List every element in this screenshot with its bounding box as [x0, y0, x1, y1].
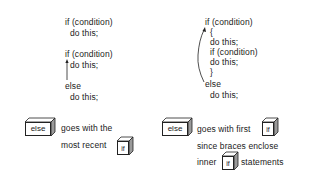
else-box-right: else — [162, 122, 188, 136]
left-block2-else: else — [65, 81, 81, 91]
else-box-right-label: else — [162, 122, 188, 136]
left-block1-do: do this; — [70, 28, 98, 38]
if-box-left-label: if — [117, 141, 129, 155]
left-block2-if: if (condition) — [65, 49, 113, 59]
left-block2-do: do this; — [70, 60, 98, 70]
left-caption-line2: most recent — [61, 140, 107, 150]
left-block1-if: if (condition) — [65, 17, 113, 27]
right-else: else — [205, 79, 221, 89]
right-caption-line1: goes with first — [197, 124, 250, 134]
right-if: if (condition) — [205, 17, 253, 27]
if-box-right2: if — [222, 156, 234, 170]
left-arrow — [65, 59, 68, 80]
right-inner-if: if (condition) — [210, 47, 258, 57]
left-caption-line1: goes with the — [61, 123, 112, 133]
else-box-left: else — [25, 122, 51, 136]
right-close-brace: } — [210, 67, 213, 77]
else-box-left-label: else — [25, 122, 51, 136]
right-else-do: do this; — [210, 90, 238, 100]
right-arrow — [198, 27, 206, 82]
right-inner-do: do this; — [210, 57, 238, 67]
right-open-brace: { — [210, 27, 213, 37]
if-box-right1-label: if — [262, 122, 274, 136]
right-caption-line4: statements — [241, 157, 284, 167]
right-caption-line3: inner — [197, 157, 216, 167]
right-do: do this; — [210, 37, 238, 47]
if-box-right1: if — [262, 122, 274, 136]
if-box-right2-label: if — [222, 156, 234, 170]
if-box-left: if — [117, 141, 129, 155]
right-caption-line2: since braces enclose — [197, 141, 278, 151]
left-block2-else-do: do this; — [70, 92, 98, 102]
